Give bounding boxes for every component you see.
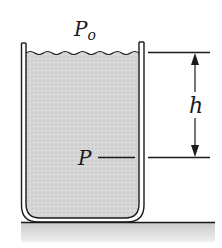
depth-label: h <box>189 93 203 118</box>
depth-pressure-label: P <box>77 146 92 170</box>
arrow-up-icon <box>191 53 199 65</box>
arrow-down-icon <box>191 145 199 157</box>
surface-pressure-label: Po <box>73 17 96 43</box>
ground <box>21 222 215 242</box>
hydrostatic-pressure-diagram: Po P h <box>0 0 222 248</box>
liquid <box>26 52 139 219</box>
